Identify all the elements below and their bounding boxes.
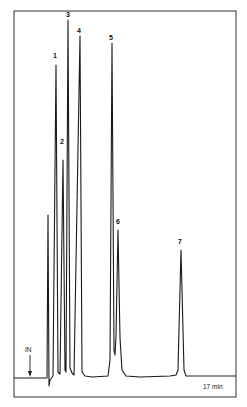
peak-label-3: 3 — [66, 11, 70, 18]
chromatogram-chart: 1 2 3 4 5 6 7 IN 17 min — [0, 0, 247, 407]
peak-label-5: 5 — [109, 34, 113, 41]
peak-label-6: 6 — [116, 218, 120, 225]
peak-label-7: 7 — [178, 238, 182, 245]
x-end-label: 17 min — [203, 383, 223, 390]
chromatogram-trace — [14, 20, 236, 386]
injection-arrow-icon — [28, 371, 32, 377]
injection-label: IN — [25, 346, 32, 353]
peak-label-1: 1 — [53, 52, 57, 59]
peak-label-4: 4 — [77, 27, 81, 34]
peak-label-2: 2 — [60, 138, 64, 145]
